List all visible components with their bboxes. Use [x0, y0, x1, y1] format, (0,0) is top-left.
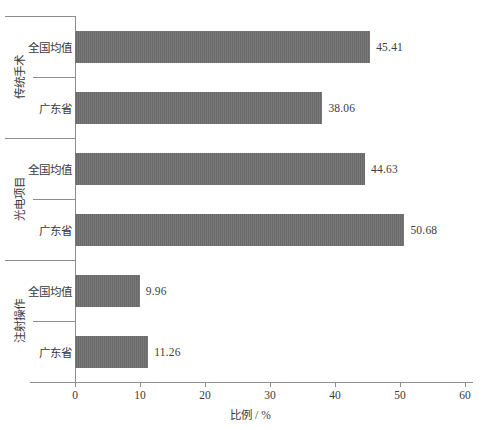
- category-label: 全国均值: [6, 161, 72, 177]
- bar-row: 38.06: [75, 92, 465, 124]
- bar-row: 45.41: [75, 31, 465, 63]
- group-label: 传统手术: [10, 16, 28, 138]
- bar-chart: 传统手术光电项目注射操作 全国均值广东省全国均值广东省全国均值广东省 45.41…: [0, 0, 501, 430]
- group-label-text: 注射操作: [11, 299, 27, 343]
- x-tick: [75, 382, 76, 387]
- bar-value-label: 45.41: [376, 41, 403, 53]
- x-tick-label: 20: [185, 389, 225, 401]
- bar-row: 44.63: [75, 153, 465, 185]
- x-tick: [400, 382, 401, 387]
- x-tick: [205, 382, 206, 387]
- category-label: 广东省: [6, 344, 72, 360]
- bar-row: 9.96: [75, 275, 465, 307]
- group-label-text: 光电项目: [11, 177, 27, 221]
- group-label-text: 传统手术: [11, 55, 27, 99]
- bar: [75, 336, 148, 368]
- x-tick-label: 60: [445, 389, 485, 401]
- bar: [75, 275, 140, 307]
- group-label: 注射操作: [10, 260, 28, 382]
- x-axis-line: [30, 382, 473, 383]
- bar: [75, 92, 322, 124]
- bar-value-label: 38.06: [328, 102, 355, 114]
- x-tick-label: 10: [120, 389, 160, 401]
- category-label: 广东省: [6, 100, 72, 116]
- category-label: 全国均值: [6, 283, 72, 299]
- bar: [75, 153, 365, 185]
- x-tick-label: 50: [380, 389, 420, 401]
- bar-row: 50.68: [75, 214, 465, 246]
- x-tick-label: 40: [315, 389, 355, 401]
- bar-value-label: 50.68: [410, 224, 437, 236]
- x-tick: [465, 382, 466, 387]
- x-tick-label: 30: [250, 389, 290, 401]
- x-tick: [140, 382, 141, 387]
- bar-row: 11.26: [75, 336, 465, 368]
- bar: [75, 214, 404, 246]
- category-separator: [33, 321, 76, 322]
- x-axis-title: 比例 / %: [0, 406, 501, 422]
- x-tick: [335, 382, 336, 387]
- bar-value-label: 9.96: [146, 285, 167, 297]
- category-separator: [33, 77, 76, 78]
- x-tick: [270, 382, 271, 387]
- category-label: 全国均值: [6, 39, 72, 55]
- category-label: 广东省: [6, 222, 72, 238]
- bar-value-label: 44.63: [371, 163, 398, 175]
- category-separator: [33, 199, 76, 200]
- x-tick-label: 0: [55, 389, 95, 401]
- bar: [75, 31, 370, 63]
- group-label: 光电项目: [10, 138, 28, 260]
- bar-value-label: 11.26: [154, 346, 180, 358]
